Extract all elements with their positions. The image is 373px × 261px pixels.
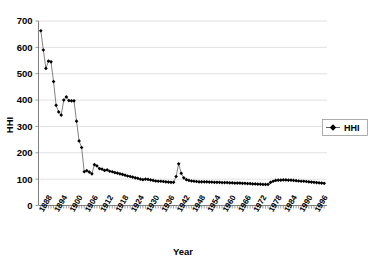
x-axis-title: Year [173, 246, 193, 257]
legend[interactable]: HHI [323, 120, 368, 136]
series-line-hhi [41, 31, 324, 185]
x-tick-label: 1996 [313, 193, 330, 213]
x-tick-label: 1894 [53, 193, 70, 213]
y-tick-label: 400 [17, 94, 33, 105]
data-point [75, 119, 79, 123]
y-axis-title: HHI [4, 117, 15, 133]
data-point [179, 171, 183, 175]
chart-container: 0100200300400500600700 18881894190019061… [0, 0, 373, 261]
data-point [77, 139, 81, 143]
data-point [322, 182, 326, 186]
x-tick-label: 1924 [129, 193, 146, 213]
y-tick-label: 300 [17, 121, 33, 132]
y-tick-label: 200 [17, 147, 33, 158]
data-point [52, 80, 56, 84]
x-tick-label: 1954 [206, 193, 223, 213]
data-point [172, 180, 176, 184]
x-tick-label: 1990 [298, 193, 315, 213]
data-point [72, 99, 76, 103]
data-point [174, 175, 178, 179]
x-tick-label: 1978 [267, 193, 284, 213]
legend-label-hhi: HHI [344, 123, 360, 133]
data-point [44, 67, 48, 71]
x-tick-label: 1918 [114, 193, 131, 213]
data-point [54, 103, 58, 107]
hhi-line-chart: 0100200300400500600700 18881894190019061… [0, 0, 373, 261]
gridlines-group [39, 21, 328, 179]
x-tick-label: 1930 [144, 193, 161, 213]
y-tick-label: 500 [17, 68, 33, 79]
y-tick-label: 0 [27, 200, 32, 211]
data-point [39, 29, 43, 33]
x-tick-label: 1972 [252, 193, 269, 213]
y-tick-label: 100 [17, 174, 33, 185]
x-tick-label: 1948 [190, 193, 207, 213]
data-point [177, 162, 181, 166]
y-tick-label: 700 [17, 15, 33, 26]
y-axis-tick-labels-group: 0100200300400500600700 [17, 15, 33, 211]
x-tick-label: 1900 [68, 193, 85, 213]
x-tick-label: 1984 [282, 193, 299, 213]
data-point [80, 146, 84, 150]
x-tick-label: 1942 [175, 193, 192, 213]
x-tick-label: 1966 [236, 193, 253, 213]
x-tick-label: 1912 [99, 193, 116, 213]
x-axis-tick-labels-group: 1888189419001906191219181924193019361942… [37, 193, 330, 213]
x-tick-label: 1960 [221, 193, 238, 213]
x-tick-label: 1936 [160, 193, 177, 213]
x-tick-label: 1888 [37, 193, 54, 213]
data-point [42, 48, 46, 52]
x-tick-label: 1906 [83, 193, 100, 213]
y-tick-label: 600 [17, 42, 33, 53]
series-markers-hhi [39, 29, 326, 186]
